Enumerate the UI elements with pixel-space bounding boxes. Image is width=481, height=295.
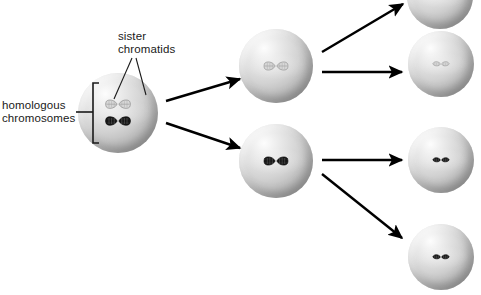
chromosome-layer (239, 124, 313, 198)
arrow-bottom-to-daughter4 (322, 174, 402, 238)
chromosome-layer (407, 0, 473, 29)
chromosome-dark-duplicated-pair (264, 157, 288, 165)
arrow-top-to-daughter1 (322, 4, 403, 52)
label-sister-chromatids: sister chromatids (118, 30, 175, 56)
arrow-parent-to-bottom (166, 123, 240, 148)
chromosome-layer (78, 73, 158, 153)
parent-cell (78, 73, 158, 153)
chromosome-dark-single (433, 158, 449, 162)
chromosome-light-duplicated-pair (106, 100, 131, 108)
chromosome-layer (408, 127, 474, 193)
daughter-cell-3 (408, 127, 474, 193)
chromosome-dark-single (433, 255, 449, 259)
daughter-cell-2 (408, 31, 474, 97)
chromosome-layer (408, 224, 474, 290)
chromosome-layer (408, 31, 474, 97)
intermediate-cell-bottom (239, 124, 313, 198)
intermediate-cell-top (239, 29, 313, 103)
chromosome-light-duplicated-pair (264, 62, 288, 70)
chromosome-dark-duplicated-pair (106, 117, 131, 125)
label-homologous-chromosomes: homologous chromosomes (2, 99, 75, 125)
meiosis-diagram: sister chromatids homologous chromosomes (0, 0, 481, 295)
daughter-cell-1 (407, 0, 473, 29)
arrow-parent-to-top (166, 79, 240, 101)
daughter-cell-4 (408, 224, 474, 290)
chromosome-layer (239, 29, 313, 103)
chromosome-light-single (433, 62, 449, 66)
